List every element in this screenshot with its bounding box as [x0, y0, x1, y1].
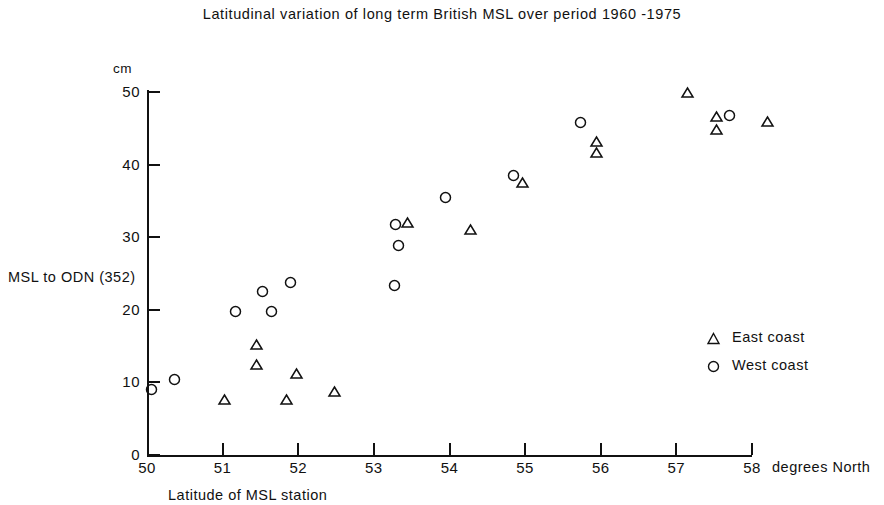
legend-label-east-coast: East coast [732, 329, 805, 345]
data-point-east-coast [249, 337, 264, 352]
data-point-east-coast [249, 357, 264, 372]
y-tick-50 [149, 91, 160, 93]
x-tick-56 [600, 443, 602, 455]
x-tick-label-56: 56 [581, 459, 621, 476]
x-tick-label-52: 52 [278, 459, 318, 476]
data-point-west-coast [438, 190, 453, 205]
chart-title: Latitudinal variation of long term Briti… [0, 6, 884, 22]
x-tick-label-58: 58 [732, 459, 772, 476]
y-tick-label-50: 50 [100, 83, 140, 100]
data-point-east-coast [760, 114, 775, 129]
circle-marker-icon [706, 359, 721, 374]
x-tick-label-50: 50 [127, 459, 167, 476]
x-axis-line [147, 455, 752, 457]
x-tick-label-54: 54 [430, 459, 470, 476]
y-tick-40 [149, 164, 160, 166]
y-tick-0 [149, 454, 160, 456]
data-point-west-coast [506, 168, 521, 183]
y-axis-line [147, 90, 149, 457]
data-point-east-coast [680, 85, 695, 100]
data-point-west-coast [264, 304, 279, 319]
legend-entry-east-coast: East coast [706, 328, 876, 356]
data-point-east-coast [463, 222, 478, 237]
data-point-west-coast [573, 115, 588, 130]
x-axis-label: Latitude of MSL station [168, 487, 327, 503]
data-point-east-coast [589, 145, 604, 160]
x-tick-label-51: 51 [203, 459, 243, 476]
x-tick-57 [675, 443, 677, 455]
scatter-chart-figure: Latitudinal variation of long term Briti… [0, 0, 884, 505]
data-point-east-coast [289, 366, 304, 381]
data-point-east-coast [217, 392, 232, 407]
x-tick-58 [751, 443, 753, 455]
y-tick-label-10: 10 [100, 373, 140, 390]
x-tick-label-55: 55 [505, 459, 545, 476]
legend-label-west-coast: West coast [732, 357, 808, 373]
data-point-east-coast [400, 215, 415, 230]
x-tick-52 [297, 443, 299, 455]
data-point-west-coast [255, 284, 270, 299]
x-axis-unit-label: degrees North [772, 459, 870, 475]
y-tick-label-30: 30 [100, 228, 140, 245]
chart-legend: East coast West coast [706, 328, 876, 384]
data-point-west-coast [391, 238, 406, 253]
x-tick-55 [524, 443, 526, 455]
legend-entry-west-coast: West coast [706, 356, 876, 384]
data-point-east-coast [709, 122, 724, 137]
y-tick-label-40: 40 [100, 156, 140, 173]
y-tick-20 [149, 309, 160, 311]
y-tick-label-20: 20 [100, 301, 140, 318]
y-axis-unit-label: cm [113, 61, 132, 76]
data-point-west-coast [722, 108, 737, 123]
x-tick-51 [222, 443, 224, 455]
data-point-east-coast [279, 392, 294, 407]
data-point-west-coast [387, 278, 402, 293]
data-point-east-coast [327, 384, 342, 399]
y-tick-30 [149, 236, 160, 238]
x-tick-54 [449, 443, 451, 455]
triangle-marker-icon [706, 331, 721, 346]
data-point-west-coast [388, 217, 403, 232]
y-axis-label: MSL to ODN (352) [8, 269, 136, 285]
data-point-west-coast [283, 275, 298, 290]
data-point-west-coast [228, 304, 243, 319]
x-tick-label-53: 53 [354, 459, 394, 476]
x-tick-53 [373, 443, 375, 455]
x-tick-label-57: 57 [656, 459, 696, 476]
data-point-west-coast [144, 382, 159, 397]
data-point-west-coast [167, 372, 182, 387]
